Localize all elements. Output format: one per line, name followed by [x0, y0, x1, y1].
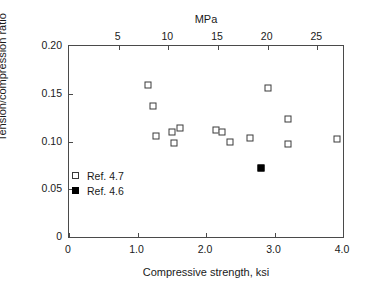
- top-axis-title: MPa: [68, 13, 344, 25]
- chart-legend: Ref. 4.7 Ref. 4.6: [72, 168, 124, 198]
- legend-label: Ref. 4.7: [87, 170, 124, 182]
- x-tick: [69, 233, 70, 238]
- top-x-tick: [168, 45, 169, 50]
- y-tick-label: 0: [26, 231, 62, 242]
- y-tick: [68, 94, 73, 95]
- data-point: [258, 165, 265, 172]
- top-x-tick-label: 15: [211, 31, 223, 42]
- data-point: [265, 85, 272, 92]
- data-point: [333, 135, 340, 142]
- legend-item-ref-4-7: Ref. 4.7: [72, 168, 124, 183]
- y-tick: [68, 142, 73, 143]
- filled-square-marker-icon: [72, 187, 79, 194]
- x-tick: [343, 233, 344, 238]
- plot-area: [68, 45, 344, 238]
- x-tick-label: 2.0: [198, 244, 213, 255]
- top-x-tick-label: 5: [115, 31, 121, 42]
- top-x-tick: [317, 45, 318, 50]
- data-point: [152, 132, 159, 139]
- data-point: [285, 115, 292, 122]
- x-tick: [138, 233, 139, 238]
- x-tick: [275, 233, 276, 238]
- y-tick-label: 0.15: [26, 88, 62, 99]
- x-tick-label: 4.0: [335, 244, 350, 255]
- scatter-chart-figure: MPa Compressive strength, ksi Tension/co…: [0, 0, 374, 290]
- y-tick-label: 0.20: [26, 40, 62, 51]
- x-tick: [206, 233, 207, 238]
- top-x-tick: [218, 45, 219, 50]
- top-x-tick-label: 25: [311, 31, 323, 42]
- data-point: [246, 134, 253, 141]
- top-x-tick: [268, 45, 269, 50]
- y-axis-title: Tension/compression ratio: [0, 13, 8, 141]
- data-point: [170, 140, 177, 147]
- data-point: [169, 128, 176, 135]
- x-tick-label: 0: [65, 244, 71, 255]
- y-tick-label: 0.10: [26, 135, 62, 146]
- x-tick-label: 3.0: [266, 244, 281, 255]
- legend-label: Ref. 4.6: [87, 185, 124, 197]
- data-point: [149, 103, 156, 110]
- x-axis-title: Compressive strength, ksi: [68, 266, 344, 278]
- data-point: [218, 128, 225, 135]
- data-point: [144, 82, 151, 89]
- data-point: [226, 139, 233, 146]
- top-x-tick: [119, 45, 120, 50]
- data-point: [176, 125, 183, 132]
- open-square-marker-icon: [72, 172, 79, 179]
- top-x-tick-label: 10: [162, 31, 174, 42]
- legend-item-ref-4-6: Ref. 4.6: [72, 183, 124, 198]
- top-x-tick-label: 20: [261, 31, 273, 42]
- x-tick-label: 1.0: [129, 244, 144, 255]
- y-tick-label: 0.05: [26, 183, 62, 194]
- data-point: [285, 141, 292, 148]
